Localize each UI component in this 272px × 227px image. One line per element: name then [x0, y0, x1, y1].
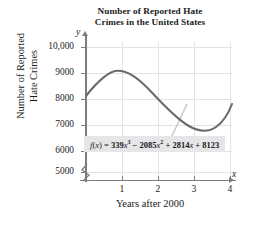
- x-tick-3: [194, 176, 195, 181]
- x-tick-1: [122, 176, 123, 181]
- x-tick-label-3: 3: [187, 183, 201, 194]
- x-tick-2: [158, 176, 159, 181]
- y-axis-variable-label: y: [76, 26, 80, 37]
- gridline-y-8000: [86, 99, 232, 100]
- hate-crimes-chart-figure: Number of Reported Hate Crimes in the Un…: [0, 0, 272, 227]
- gridline-y-9000: [86, 73, 232, 74]
- gridline-y-10000: [86, 47, 232, 48]
- y-tick-label-7000: 7000: [28, 119, 74, 129]
- gridline-x-4: [230, 42, 231, 180]
- y-tick-5000: [81, 172, 86, 173]
- y-tick-7000: [81, 125, 86, 126]
- y-tick-label-10000: 10,000: [28, 41, 74, 51]
- y-tick-label-6000: 6000: [28, 145, 74, 155]
- equation-callout: f(x) = 339x3 − 2085x2 + 2814x + 8123: [84, 136, 225, 152]
- y-axis-arrow-icon: [82, 31, 88, 36]
- y-tick-9000: [81, 73, 86, 74]
- plot-area: 10,000 9000 8000 7000 6000 5000 1 2 3 4 …: [0, 0, 272, 227]
- y-axis-break-icon: [78, 163, 96, 183]
- y-axis-line: [85, 36, 87, 182]
- x-tick-4: [230, 176, 231, 181]
- y-tick-label-5000: 5000: [28, 166, 74, 176]
- x-tick-label-4: 4: [223, 183, 237, 194]
- x-tick-label-2: 2: [151, 183, 165, 194]
- x-axis-caption: Years after 2000: [62, 198, 238, 209]
- gridline-x-3: [194, 42, 195, 180]
- x-axis-variable-label: x: [232, 168, 236, 179]
- y-tick-label-9000: 9000: [28, 67, 74, 77]
- y-tick-10000: [81, 47, 86, 48]
- gridline-x-2: [158, 42, 159, 180]
- equation-text: f(x) = 339x3 − 2085x2 + 2814x + 8123: [90, 139, 219, 150]
- x-tick-label-1: 1: [115, 183, 129, 194]
- y-tick-label-8000: 8000: [28, 93, 74, 103]
- gridline-y-5000: [86, 172, 232, 173]
- y-tick-8000: [81, 99, 86, 100]
- gridline-y-7000: [86, 125, 232, 126]
- gridline-x-1: [122, 42, 123, 180]
